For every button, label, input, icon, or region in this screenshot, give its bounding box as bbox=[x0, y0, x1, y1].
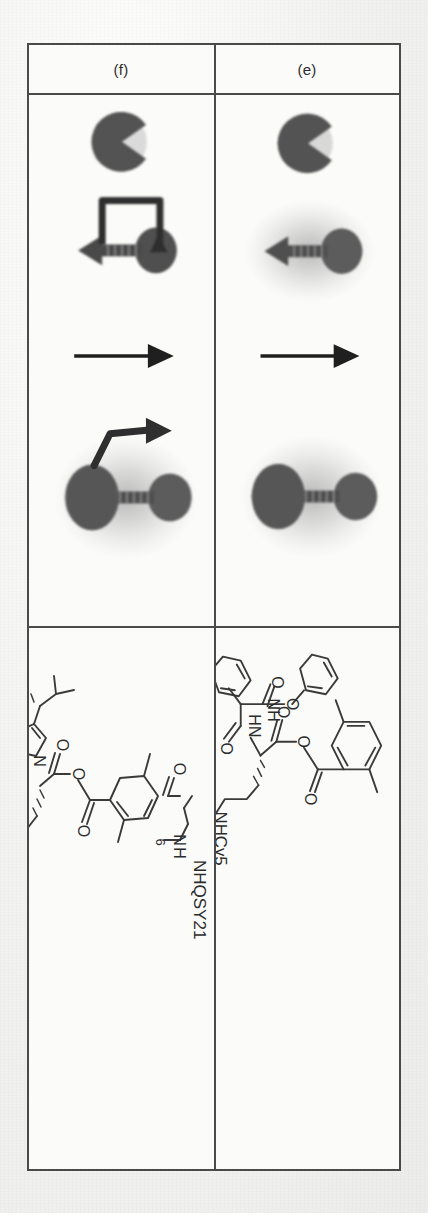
benzamide-oxygen-label: O bbox=[171, 762, 188, 774]
protease-enzyme-icon-f bbox=[91, 111, 147, 171]
fret-probe-release-scheme bbox=[29, 95, 214, 626]
carbamate-hydrogen-label: H bbox=[265, 710, 282, 721]
ester-oxygen-label-f: O bbox=[70, 767, 87, 779]
rotated-figure-stage: (e) bbox=[27, 43, 401, 1171]
amide-nitrogen-label-f: N bbox=[171, 834, 188, 846]
nhqsy21-label: NHQSY21 bbox=[190, 860, 209, 939]
cy5-probe-dimethylbenzoate-ester-structure: O O O O O O N H N H NHCy5 bbox=[216, 628, 399, 1169]
cleaved-probe-icon-e bbox=[241, 435, 383, 558]
nhcy5-label: NHCy5 bbox=[216, 811, 230, 865]
structure-cell-f: NHQSY21 6 N H O O O O N N N HN O S bbox=[29, 628, 214, 1169]
ester-carbonyl-oxygen-label-f: O bbox=[75, 824, 92, 836]
scheme-cell-e bbox=[216, 95, 399, 628]
carbamate-nitrogen-label: N bbox=[265, 698, 282, 709]
panel-letter-f: (f) bbox=[114, 60, 129, 77]
amide-hydrogen-label: H bbox=[246, 714, 263, 725]
fret-probe-cleavage-scheme bbox=[216, 95, 399, 626]
amide-nitrogen-label: N bbox=[246, 726, 263, 737]
amide-oxygen-label: O bbox=[218, 742, 235, 754]
panel-label-cell-e: (e) bbox=[216, 45, 399, 95]
structure-cell-e: O O O O O O N H N H NHCy5 bbox=[216, 628, 399, 1169]
quenched-probe-icon-e bbox=[245, 199, 376, 302]
transition-arrow-e bbox=[261, 344, 360, 368]
panel-letter-e: (e) bbox=[298, 60, 317, 77]
figure-row-e: (e) bbox=[214, 45, 399, 1169]
figure-row-f: (f) bbox=[29, 45, 214, 1169]
transition-arrow-f bbox=[74, 344, 174, 368]
bound-probe-icon-f bbox=[78, 200, 177, 273]
carbamate-oxygen-label: O bbox=[269, 676, 286, 688]
ketone-oxygen-label-f: O bbox=[54, 738, 71, 750]
cy5-qsy21-triazole-thiophene-probe-structure: NHQSY21 6 N H O O O O N N N HN O S bbox=[29, 628, 214, 1169]
figure-table: (e) bbox=[27, 43, 401, 1171]
triazole-n1-label: N bbox=[31, 755, 48, 767]
repeat-count-label: 6 bbox=[153, 838, 168, 845]
amide-hydrogen-label-f: H bbox=[171, 847, 188, 859]
ester-oxygen-label: O bbox=[295, 735, 312, 747]
carbamate-ester-oxygen-label: O bbox=[284, 697, 301, 709]
oxygen-label: O bbox=[302, 792, 319, 804]
panel-label-cell-f: (f) bbox=[29, 45, 214, 95]
released-probe-icon-f bbox=[54, 417, 197, 558]
scheme-cell-f bbox=[29, 95, 214, 628]
protease-enzyme-icon-e bbox=[278, 113, 333, 172]
